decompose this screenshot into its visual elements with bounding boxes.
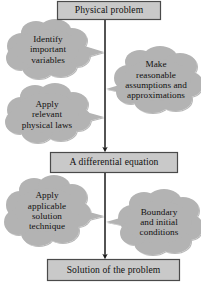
flowchart-diagram: Physical problem A differential equation… — [0, 0, 201, 288]
cloud-boundary-initial-conditions — [106, 189, 201, 255]
cloud-make-reasonable-assumptions — [106, 46, 201, 113]
flowchart-canvas — [0, 0, 201, 288]
cloud-identify-important-variables — [6, 19, 104, 79]
cloud-apply-applicable-solution-technique — [4, 175, 104, 246]
cloud-apply-relevant-physical-laws — [5, 83, 104, 143]
box-solution-of-problem — [48, 260, 180, 281]
box-physical-problem — [58, 2, 161, 20]
box-differential-equation — [51, 153, 178, 173]
